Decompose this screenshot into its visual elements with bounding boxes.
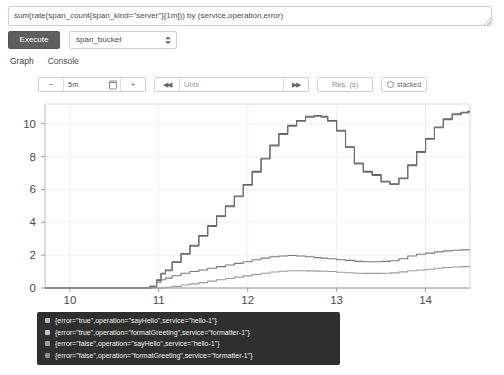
until-input[interactable]: Until xyxy=(179,78,283,91)
double-right-arrow-icon: ▶▶ xyxy=(292,81,300,89)
range-input[interactable]: 5m xyxy=(63,78,120,91)
calendar-icon[interactable] xyxy=(109,80,117,89)
legend-color-swatch xyxy=(45,318,50,323)
legend-item[interactable]: {error="true",operation="formatGreeting"… xyxy=(37,327,340,339)
legend-color-swatch xyxy=(45,330,50,335)
prometheus-graph-page: sum(rate(span_count{span_kind="server"}[… xyxy=(0,0,504,375)
metric-select[interactable]: span_bucket xyxy=(69,31,177,49)
legend-color-swatch xyxy=(45,341,50,346)
x-tick-label: 12 xyxy=(241,294,254,306)
view-tabs: Graph Console xyxy=(8,55,81,67)
query-expression-input[interactable]: sum(rate(span_count{span_kind="server"}[… xyxy=(8,6,492,26)
chart-svg: 02468101011121314 xyxy=(0,96,504,311)
stacked-group: stacked xyxy=(381,77,427,92)
range-group: − 5m + xyxy=(38,77,146,92)
series-line-3 xyxy=(45,266,470,288)
stacked-toggle[interactable]: stacked xyxy=(382,78,426,91)
y-tick-label: 6 xyxy=(30,183,36,195)
radio-icon xyxy=(387,81,394,88)
increase-range-button[interactable]: + xyxy=(120,78,145,91)
select-updown-icon xyxy=(165,36,171,44)
metric-select-value: span_bucket xyxy=(76,35,121,44)
series-line-0 xyxy=(45,111,470,288)
x-tick-label: 14 xyxy=(419,294,432,306)
range-value: 5m xyxy=(68,80,78,89)
step-backward-button[interactable]: ◀◀ xyxy=(155,78,179,91)
legend-item[interactable]: {error="false",operation="sayHello",serv… xyxy=(37,338,340,350)
series-line-1 xyxy=(45,112,470,288)
x-tick-label: 10 xyxy=(63,294,76,306)
chart-legend: {error="true",operation="sayHello",servi… xyxy=(37,312,340,365)
x-tick-label: 13 xyxy=(330,294,343,306)
legend-item[interactable]: {error="false",operation="formatGreeting… xyxy=(37,350,340,362)
graph-chart[interactable]: 02468101011121314 xyxy=(0,96,504,311)
y-tick-label: 0 xyxy=(30,282,36,294)
y-tick-label: 2 xyxy=(30,249,36,261)
double-left-arrow-icon: ◀◀ xyxy=(163,81,171,89)
legend-item-label: {error="true",operation="sayHello",servi… xyxy=(55,317,217,324)
step-forward-button[interactable]: ▶▶ xyxy=(283,78,308,91)
resolution-group: Res. (s) xyxy=(317,77,373,92)
tab-graph[interactable]: Graph xyxy=(8,55,36,67)
resize-grip-icon[interactable] xyxy=(484,18,491,25)
decrease-range-button[interactable]: − xyxy=(39,78,63,91)
y-tick-label: 8 xyxy=(30,151,36,163)
tab-console[interactable]: Console xyxy=(46,55,81,67)
query-input-wrapper: sum(rate(span_count{span_kind="server"}[… xyxy=(8,6,492,26)
legend-color-swatch xyxy=(45,353,50,358)
stacked-label: stacked xyxy=(397,81,421,88)
x-tick-label: 11 xyxy=(153,294,165,306)
legend-item-label: {error="false",operation="sayHello",serv… xyxy=(55,340,220,347)
legend-item-label: {error="false",operation="formatGreeting… xyxy=(55,352,253,359)
y-tick-label: 4 xyxy=(30,216,37,228)
time-group: ◀◀ Until ▶▶ xyxy=(154,77,309,92)
execute-button[interactable]: Execute xyxy=(8,31,60,49)
execute-row: Execute span_bucket xyxy=(8,31,177,49)
y-tick-label: 10 xyxy=(23,118,36,130)
legend-item[interactable]: {error="true",operation="sayHello",servi… xyxy=(37,315,340,327)
graph-toolbar: − 5m + ◀◀ Until ▶▶ Res. (s) stacked xyxy=(38,77,427,92)
legend-item-label: {error="true",operation="formatGreeting"… xyxy=(55,329,250,336)
resolution-input[interactable]: Res. (s) xyxy=(318,78,372,91)
